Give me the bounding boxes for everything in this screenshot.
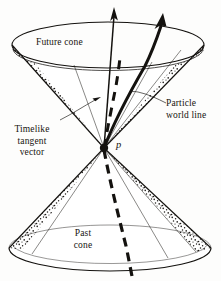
- past-cone: [9, 148, 211, 271]
- light-cone-figure: Future cone Past cone Particle world lin…: [0, 0, 221, 281]
- future-cone-rim-ellipse: [12, 22, 204, 68]
- light-cone-drawing: [0, 0, 221, 281]
- apex-dot: [100, 144, 108, 152]
- past-cone-right-stipple: [9, 148, 211, 271]
- apex-point-marker: [100, 144, 108, 152]
